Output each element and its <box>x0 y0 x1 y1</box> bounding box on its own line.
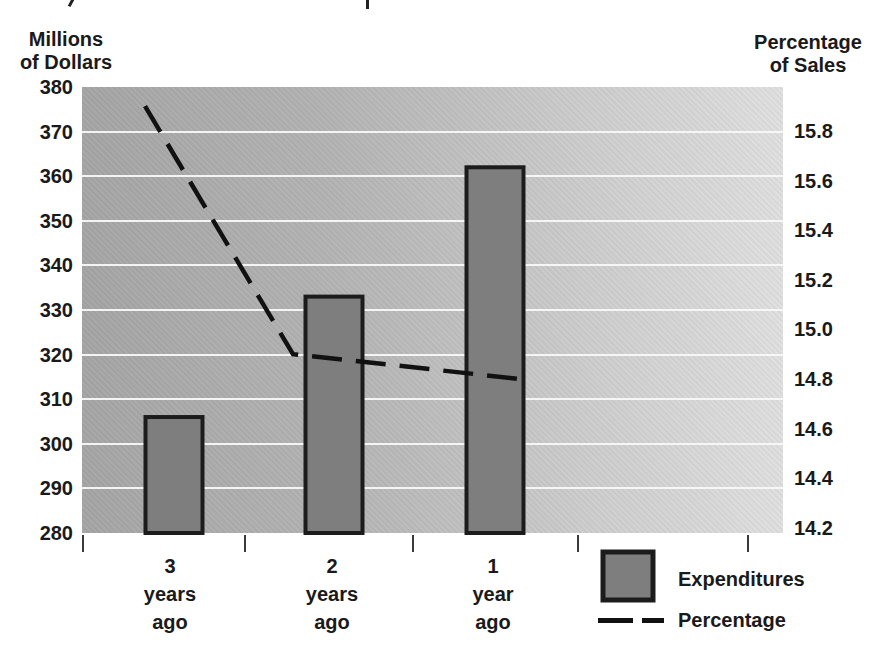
chart-series-layer <box>82 87 783 533</box>
left-axis-tick-label: 360 <box>0 165 73 187</box>
left-axis-title-line1: Millions <box>14 28 118 51</box>
expenditures-bar <box>306 297 363 533</box>
x-axis-tick <box>82 535 84 552</box>
expenditures-bar <box>146 417 203 533</box>
x-axis-tick <box>412 535 414 552</box>
right-axis-tick-label: 14.2 <box>794 517 880 539</box>
x-axis-tick <box>244 535 246 552</box>
x-category-label-line: years <box>105 580 235 608</box>
x-category-label-line: ago <box>267 608 397 636</box>
cropped-text-fragment <box>68 0 75 7</box>
x-category-label-line: year <box>428 580 558 608</box>
left-axis-tick-label: 340 <box>0 254 73 276</box>
x-axis-tick <box>577 535 579 552</box>
right-axis-title-line1: Percentage <box>748 31 868 54</box>
x-axis-tick <box>747 535 749 552</box>
right-axis-tick-label: 15.4 <box>794 219 880 241</box>
right-axis-tick-label: 15.8 <box>794 120 880 142</box>
chart-figure: Millions of Dollars Percentage of Sales … <box>0 0 882 651</box>
left-axis-tick-label: 300 <box>0 433 73 455</box>
right-axis-tick-label: 14.4 <box>794 467 880 489</box>
right-axis-tick-label: 15.2 <box>794 269 880 291</box>
left-axis-tick-label: 330 <box>0 299 73 321</box>
right-axis-tick-label: 14.6 <box>794 418 880 440</box>
legend-bar-swatch <box>600 549 656 603</box>
right-axis-tick-label: 15.6 <box>794 170 880 192</box>
right-axis-title-line2: of Sales <box>748 54 868 77</box>
left-axis-title-line2: of Dollars <box>14 51 118 74</box>
cropped-text-fragment <box>366 0 369 9</box>
x-category-label-line: ago <box>428 608 558 636</box>
right-axis-title: Percentage of Sales <box>748 31 868 77</box>
legend-label-percentage: Percentage <box>678 608 786 632</box>
x-category-label: 2yearsago <box>267 552 397 636</box>
legend-label-expenditures: Expenditures <box>678 567 805 591</box>
right-axis-tick-label: 14.8 <box>794 368 880 390</box>
x-category-label-line: 2 <box>267 552 397 580</box>
expenditures-bar <box>467 167 524 533</box>
x-category-label-line: years <box>267 580 397 608</box>
x-category-label: 3yearsago <box>105 552 235 636</box>
left-axis-title: Millions of Dollars <box>14 28 118 74</box>
x-category-label-line: ago <box>105 608 235 636</box>
left-axis-tick-label: 350 <box>0 210 73 232</box>
left-axis-tick-label: 370 <box>0 121 73 143</box>
x-category-label-line: 3 <box>105 552 235 580</box>
left-axis-tick-label: 290 <box>0 477 73 499</box>
right-axis-tick-label: 15.0 <box>794 318 880 340</box>
x-category-label: 1yearago <box>428 552 558 636</box>
left-axis-tick-label: 320 <box>0 344 73 366</box>
legend-dashed-line-swatch <box>598 616 664 625</box>
x-category-label-line: 1 <box>428 552 558 580</box>
left-axis-tick-label: 280 <box>0 522 73 544</box>
left-axis-tick-label: 310 <box>0 388 73 410</box>
plot-area <box>82 87 783 533</box>
left-axis-tick-label: 380 <box>0 76 73 98</box>
